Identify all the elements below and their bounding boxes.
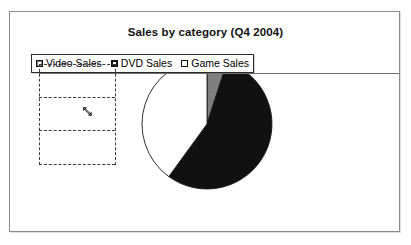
chart-frame[interactable]: Sales by category (Q4 2004) Video Sales … xyxy=(9,11,400,232)
legend-swatch-icon-video-sales xyxy=(36,60,43,67)
diagonal-resize-cursor-icon[interactable] xyxy=(79,103,94,118)
chart-screenshot: Sales by category (Q4 2004) Video Sales … xyxy=(0,0,411,245)
legend-item-game-sales[interactable]: Game Sales xyxy=(181,58,249,69)
legend-swatch-icon-dvd-sales xyxy=(111,60,118,67)
worksheet-row-divider xyxy=(39,73,399,74)
pie-slices xyxy=(142,59,272,189)
legend-label-game-sales: Game Sales xyxy=(191,58,249,69)
pie-plot-area[interactable] xyxy=(10,12,401,233)
chart-legend[interactable]: Video Sales DVD Sales Game Sales xyxy=(31,54,254,73)
legend-label-dvd-sales: DVD Sales xyxy=(121,58,172,69)
legend-item-video-sales[interactable]: Video Sales xyxy=(36,58,102,69)
legend-item-dvd-sales[interactable]: DVD Sales xyxy=(111,58,172,69)
legend-label-video-sales: Video Sales xyxy=(46,58,102,69)
legend-swatch-icon-game-sales xyxy=(181,60,188,67)
